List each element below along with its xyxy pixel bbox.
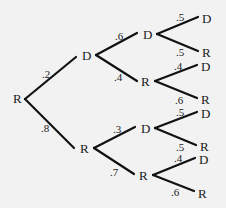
prob-d-r: .4	[114, 71, 123, 83]
prob-r-d: .3	[113, 123, 122, 135]
leaf-drd: D	[201, 59, 210, 74]
prob-dd-d: .5	[176, 11, 185, 23]
edge-root-to-d	[25, 57, 76, 99]
root-node: R	[13, 91, 22, 106]
prob-dd-r: .5	[176, 46, 185, 58]
prob-r-r: .7	[110, 166, 119, 178]
leaf-rrd: D	[199, 152, 208, 167]
prob-rr-r: .6	[171, 186, 180, 198]
leaf-ddd: D	[202, 11, 211, 26]
leaf-rdd: D	[201, 106, 210, 121]
prob-rd-d: .5	[176, 106, 185, 118]
leaf-ddr: R	[202, 45, 211, 60]
node-dr: R	[141, 74, 150, 89]
prob-rr-d: .4	[174, 152, 183, 164]
prob-root-r: .8	[41, 122, 50, 134]
node-dd: D	[143, 27, 152, 42]
node-r: R	[80, 141, 89, 156]
node-d: D	[82, 48, 91, 63]
prob-dr-r: .6	[175, 94, 184, 106]
leaf-rrr: R	[198, 186, 207, 201]
prob-d-d: .6	[115, 30, 124, 42]
node-rr: R	[139, 168, 148, 183]
leaf-drr: R	[201, 92, 210, 107]
node-rd: D	[141, 121, 150, 136]
prob-root-d: .2	[42, 68, 50, 80]
prob-dr-d: .4	[174, 60, 183, 72]
edge-root-to-r	[25, 99, 74, 148]
probability-tree: R .2 .8 D R .6 .4 .3 .7 D R D R .5 .5 .4…	[0, 0, 226, 208]
